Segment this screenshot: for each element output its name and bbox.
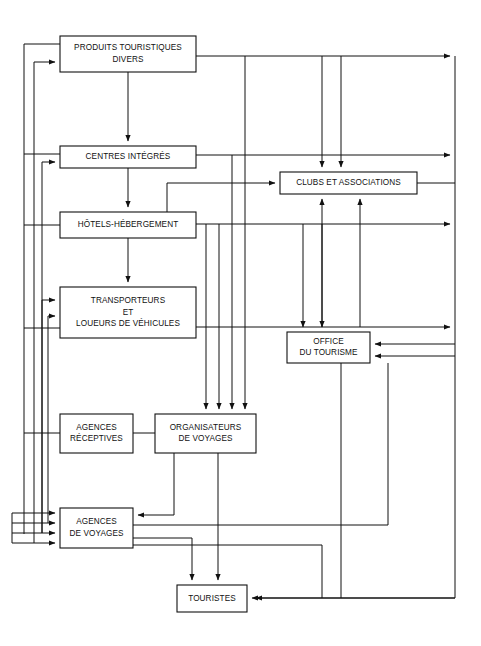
node-transporteurs[interactable]: TRANSPORTEURSETLOUEURS DE VÉHICULES: [60, 287, 196, 338]
node-layer: PRODUITS TOURISTIQUESDIVERSCENTRES INTÉG…: [60, 36, 417, 612]
flowchart-svg: PRODUITS TOURISTIQUESDIVERSCENTRES INTÉG…: [0, 0, 481, 646]
node-agences[interactable]: AGENCESDE VOYAGES: [60, 508, 133, 548]
node-label-transporteurs: TRANSPORTEURS: [91, 296, 166, 305]
node-label-office: OFFICE: [313, 337, 344, 346]
connector-left-inner-riser-to-transport-b: [48, 316, 55, 523]
node-label-organisateurs: DE VOYAGES: [178, 434, 233, 443]
node-label-agences: AGENCES: [76, 517, 117, 526]
node-office[interactable]: OFFICEDU TOURISME: [287, 332, 370, 363]
node-hotels[interactable]: HÔTELS-HÉBERGEMENT: [60, 212, 196, 238]
node-label-clubs: CLUBS ET ASSOCIATIONS: [296, 178, 401, 187]
node-label-touristes: TOURISTES: [188, 594, 236, 603]
node-label-receptives: AGENCES: [76, 423, 117, 432]
node-label-agences: DE VOYAGES: [69, 529, 124, 538]
flowchart-canvas: PRODUITS TOURISTIQUESDIVERSCENTRES INTÉG…: [0, 0, 481, 646]
node-label-office: DU TOURISME: [299, 348, 358, 357]
node-label-centres: CENTRES INTÉGRÉS: [86, 151, 171, 161]
node-label-hotels: HÔTELS-HÉBERGEMENT: [78, 219, 179, 229]
connector-left-inner-riser-to-produits: [34, 62, 55, 543]
node-label-produits: DIVERS: [112, 55, 144, 64]
node-centres[interactable]: CENTRES INTÉGRÉS: [60, 146, 196, 168]
node-clubs[interactable]: CLUBS ET ASSOCIATIONS: [280, 172, 417, 194]
connector-organisateurs-to-agences: [138, 453, 174, 515]
node-label-transporteurs: ET: [123, 308, 134, 317]
node-label-transporteurs: LOUEURS DE VÉHICULES: [76, 318, 180, 328]
node-label-organisateurs: ORGANISATEURS: [170, 423, 242, 432]
node-touristes[interactable]: TOURISTES: [177, 585, 247, 612]
node-label-produits: PRODUITS TOURISTIQUES: [74, 43, 182, 52]
connector-agences-to-touristes: [133, 538, 192, 580]
node-produits[interactable]: PRODUITS TOURISTIQUESDIVERS: [60, 36, 196, 72]
node-organisateurs[interactable]: ORGANISATEURSDE VOYAGES: [155, 414, 256, 453]
node-label-receptives: RÉCEPTIVES: [70, 433, 123, 443]
node-receptives[interactable]: AGENCESRÉCEPTIVES: [60, 414, 133, 453]
